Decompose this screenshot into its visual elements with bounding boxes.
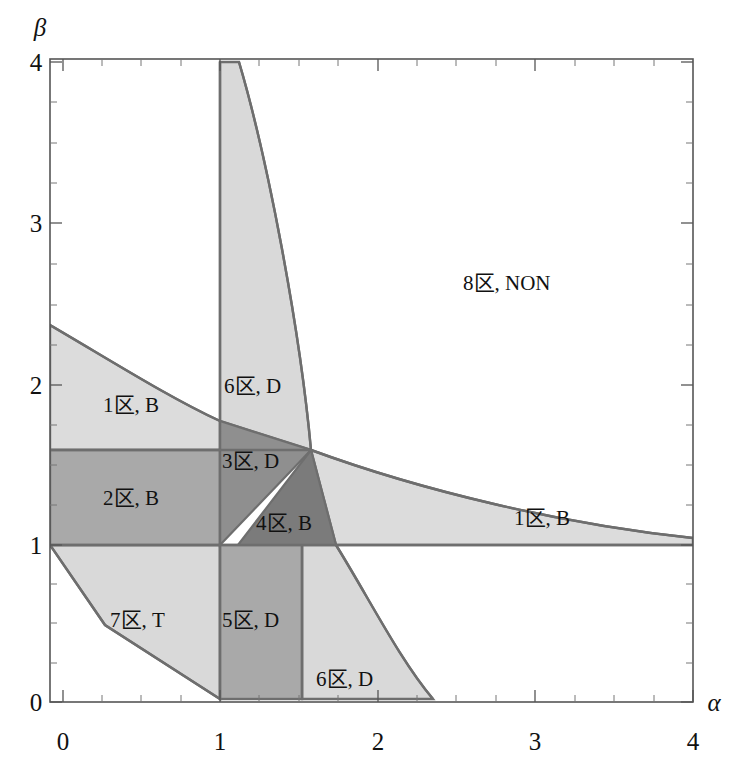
region-label-2: 2区, B [103,486,159,510]
region-label-7: 7区, T [110,608,165,632]
y-tick-label-4: 4 [30,49,43,76]
x-axis-ticks-top [63,59,654,71]
y-tick-label-2: 2 [30,372,43,399]
x-axis-label: α [707,689,721,716]
region-label-1b: 1区, B [514,506,570,530]
region-label-5: 5区, D [222,608,279,632]
x-tick-label-3: 3 [529,728,542,755]
x-tick-label-4: 4 [687,728,700,755]
region-label-1a: 1区, B [103,393,159,417]
y-tick-label-0: 0 [30,689,43,716]
y-axis-label: β [33,14,47,41]
region-label-4: 4区, B [256,511,312,535]
phase-diagram-figure: 0 1 2 3 4 0 1 2 3 4 α β 1区, B 1区, B 2区, … [0,0,740,781]
region-shape-1a [50,325,220,450]
y-tick-label-3: 3 [30,210,43,237]
y-axis-ticks-right [681,62,693,702]
region-shading-group [50,62,693,699]
region-label-6b: 6区, D [316,667,373,691]
x-tick-label-0: 0 [57,728,70,755]
region-label-6a: 6区, D [224,374,281,398]
x-axis-ticks [63,690,693,702]
x-tick-label-1: 1 [214,728,227,755]
region-label-8: 8区, NON [463,271,551,295]
y-tick-label-1: 1 [30,532,43,559]
region-label-3: 3区, D [222,449,279,473]
plot-canvas: 0 1 2 3 4 0 1 2 3 4 α β 1区, B 1区, B 2区, … [0,0,740,781]
x-tick-label-2: 2 [372,728,385,755]
